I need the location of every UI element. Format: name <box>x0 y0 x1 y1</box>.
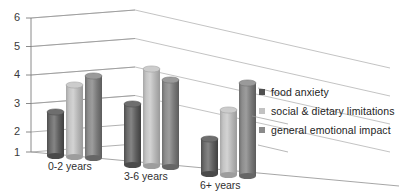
bar-group-0-2-years <box>47 73 102 161</box>
bar-food-anxiety-3-6-years <box>124 101 141 168</box>
bar-group-3-6-years <box>124 66 179 170</box>
chart-figure: 6 5 4 3 2 1 0-2 years 3-6 years 6+ years… <box>0 0 407 191</box>
bar-general-emotional-impact-6-plus-years <box>239 80 256 179</box>
legend-label-general-emotional-impact: general emotional impact <box>271 124 391 136</box>
bar-food-anxiety-0-2-years <box>47 109 64 159</box>
legend-label-social-dietary-limitations: social & dietary limitations <box>271 105 395 117</box>
y-axis-label-2: 2 <box>4 126 20 137</box>
legend-item-food-anxiety: food anxiety <box>259 82 405 101</box>
bar-social-dietary-limitations-6-plus-years <box>220 107 237 178</box>
bar-general-emotional-impact-0-2-years <box>85 73 102 161</box>
y-axis-label-4: 4 <box>4 69 20 80</box>
legend-swatch-food-anxiety <box>259 89 265 95</box>
legend-item-general-emotional-impact: general emotional impact <box>259 120 405 139</box>
y-axis-ticks <box>26 18 31 152</box>
bar-group-6-plus-years <box>201 80 256 179</box>
legend-swatch-general-emotional-impact <box>259 127 265 133</box>
y-axis-label-1: 1 <box>4 147 20 158</box>
legend-label-food-anxiety: food anxiety <box>271 86 329 98</box>
bar-social-dietary-limitations-3-6-years <box>143 66 160 169</box>
legend-item-social-dietary-limitations: social & dietary limitations <box>259 101 405 120</box>
y-axis-label-3: 3 <box>4 98 20 109</box>
bar-social-dietary-limitations-0-2-years <box>66 82 83 160</box>
x-axis-label-3-6-years: 3-6 years <box>124 170 168 182</box>
y-axis-label-6: 6 <box>4 12 20 23</box>
chart-legend: food anxiety social & dietary limitation… <box>259 82 405 139</box>
x-axis-label-0-2-years: 0-2 years <box>48 160 92 172</box>
x-axis-label-6-plus-years: 6+ years <box>200 179 241 191</box>
legend-swatch-social-dietary-limitations <box>259 108 265 114</box>
bar-food-anxiety-6-plus-years <box>201 136 218 177</box>
y-axis-label-5: 5 <box>4 41 20 52</box>
bar-general-emotional-impact-3-6-years <box>162 77 179 170</box>
